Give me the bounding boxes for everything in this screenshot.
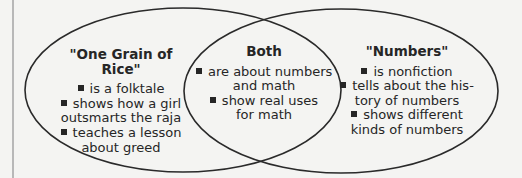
left-item: shows how a girl outsmarts the raja bbox=[58, 97, 184, 126]
both-item: show real uses for math bbox=[196, 94, 332, 123]
bullet-icon bbox=[61, 100, 67, 106]
bullet-icon bbox=[78, 85, 84, 91]
bullet-icon bbox=[351, 111, 357, 117]
bullet-icon bbox=[196, 68, 202, 74]
bullet-icon bbox=[210, 97, 216, 103]
right-region: "Numbers" is nonfiction tells about the … bbox=[340, 44, 474, 138]
left-item: teaches a lesson about greed bbox=[58, 126, 184, 155]
both-region: Both are about numbers and math show rea… bbox=[196, 44, 332, 123]
right-title: "Numbers" bbox=[340, 44, 474, 59]
bullet-icon bbox=[361, 68, 367, 74]
bullet-icon bbox=[61, 129, 67, 135]
both-item: are about numbers and math bbox=[196, 65, 332, 94]
bullet-icon bbox=[340, 82, 346, 88]
right-item: tells about the his- tory of numbers bbox=[340, 79, 474, 108]
right-item: shows different kinds of numbers bbox=[340, 108, 474, 137]
both-title: Both bbox=[196, 44, 332, 59]
left-item: is a folktale bbox=[58, 82, 184, 97]
left-title: "One Grain of Rice" bbox=[58, 47, 184, 76]
left-region: "One Grain of Rice" is a folktale shows … bbox=[58, 47, 184, 155]
right-item: is nonfiction bbox=[340, 65, 474, 80]
